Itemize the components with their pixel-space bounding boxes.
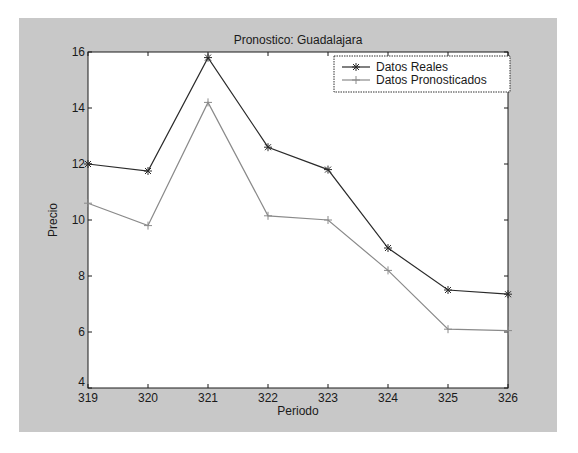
x-tick-label: 323 [318, 391, 338, 405]
legend: Datos RealesDatos Pronosticados [334, 56, 510, 92]
star-marker-icon [324, 166, 332, 174]
figure-panel: Pronostico: Guadalajara46810121416319320… [19, 18, 557, 432]
star-legend-marker-icon [352, 63, 360, 71]
star-marker-icon [444, 286, 452, 294]
star-marker-icon [144, 167, 152, 175]
x-tick-label: 325 [438, 391, 458, 405]
star-marker-icon [504, 290, 512, 298]
y-tick-label: 8 [78, 269, 85, 283]
x-tick-label: 321 [198, 391, 218, 405]
y-tick-label: 12 [72, 157, 86, 171]
star-marker-icon [384, 244, 392, 252]
y-tick-label: 16 [72, 45, 86, 59]
y-tick-label: 10 [72, 213, 86, 227]
y-tick-label: 4 [78, 375, 85, 389]
legend-label: Datos Pronosticados [376, 73, 487, 87]
star-marker-icon [204, 54, 212, 62]
x-tick-label: 320 [138, 391, 158, 405]
x-axis-label: Periodo [277, 404, 319, 418]
line-chart: Pronostico: Guadalajara46810121416319320… [19, 18, 557, 432]
x-tick-label: 319 [78, 391, 98, 405]
star-marker-icon [264, 143, 272, 151]
y-tick-label: 14 [72, 101, 86, 115]
star-marker-icon [84, 160, 92, 168]
chart-title: Pronostico: Guadalajara [234, 33, 363, 47]
x-tick-label: 324 [378, 391, 398, 405]
y-axis-label: Precio [46, 203, 60, 237]
x-tick-label: 322 [258, 391, 278, 405]
legend-label: Datos Reales [376, 60, 448, 74]
y-tick-label: 6 [78, 325, 85, 339]
x-tick-label: 326 [498, 391, 518, 405]
